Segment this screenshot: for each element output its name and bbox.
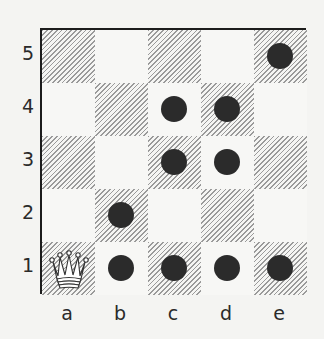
- square-a5: [42, 30, 95, 83]
- square-e2: [254, 189, 307, 242]
- file-label-b: b: [110, 302, 130, 324]
- square-d5: [201, 30, 254, 83]
- marker-dot-icon: [161, 149, 187, 175]
- square-c1: [148, 242, 201, 295]
- square-c5: [148, 30, 201, 83]
- square-c2: [148, 189, 201, 242]
- marker-dot-icon: [267, 255, 293, 281]
- square-e4: [254, 83, 307, 136]
- square-e5: [254, 30, 307, 83]
- marker-dot-icon: [161, 96, 187, 122]
- marker-dot-icon: [214, 96, 240, 122]
- square-b3: [95, 136, 148, 189]
- file-label-d: d: [216, 302, 236, 324]
- square-e1: [254, 242, 307, 295]
- marker-dot-icon: [108, 255, 134, 281]
- square-a2: [42, 189, 95, 242]
- chess-board: [40, 28, 306, 294]
- square-b2: [95, 189, 148, 242]
- file-label-e: e: [269, 302, 289, 324]
- square-b4: [95, 83, 148, 136]
- rank-label-2: 2: [20, 201, 36, 223]
- marker-dot-icon: [214, 255, 240, 281]
- rank-label-4: 4: [20, 95, 36, 117]
- marker-dot-icon: [214, 149, 240, 175]
- square-a1: [42, 242, 95, 295]
- square-c4: [148, 83, 201, 136]
- square-d1: [201, 242, 254, 295]
- square-a3: [42, 136, 95, 189]
- square-d3: [201, 136, 254, 189]
- square-d4: [201, 83, 254, 136]
- marker-dot-icon: [108, 202, 134, 228]
- square-b1: [95, 242, 148, 295]
- file-label-c: c: [163, 302, 183, 324]
- queen-icon: [48, 248, 90, 290]
- rank-label-3: 3: [20, 148, 36, 170]
- file-label-a: a: [57, 302, 77, 324]
- square-e3: [254, 136, 307, 189]
- marker-dot-icon: [267, 43, 293, 69]
- square-b5: [95, 30, 148, 83]
- marker-dot-icon: [161, 255, 187, 281]
- rank-label-1: 1: [20, 254, 36, 276]
- square-d2: [201, 189, 254, 242]
- rank-label-5: 5: [20, 42, 36, 64]
- square-a4: [42, 83, 95, 136]
- square-c3: [148, 136, 201, 189]
